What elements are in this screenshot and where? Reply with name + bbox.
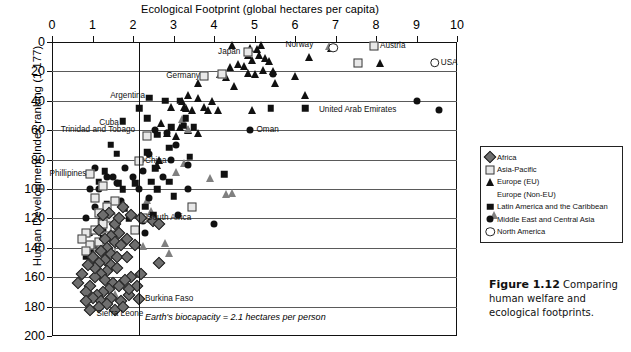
- data-point: [87, 186, 94, 193]
- y-tick-label: 20: [11, 64, 45, 78]
- data-point: [140, 168, 147, 175]
- legend-item[interactable]: Africa: [484, 151, 618, 163]
- data-point: [248, 56, 256, 64]
- data-point: [165, 249, 173, 257]
- point-label: Burkina Faso: [145, 295, 193, 303]
- point-label: Sierra Leone: [96, 310, 143, 318]
- legend-marker-icon: [484, 188, 497, 200]
- legend-item[interactable]: Europe (Non-EU): [484, 188, 618, 200]
- y-tick: [47, 218, 52, 219]
- data-point: [248, 106, 256, 114]
- data-point: [187, 202, 196, 211]
- data-point: [172, 132, 180, 140]
- y-tick-label: 120: [11, 211, 45, 225]
- data-point: [199, 71, 208, 80]
- biocapacity-note: Earth's biocapacity = 2.1 hectares per p…: [145, 312, 326, 322]
- x-tick: [457, 36, 458, 42]
- data-point: [142, 230, 149, 237]
- data-point: [146, 194, 153, 201]
- data-point: [120, 118, 127, 125]
- data-point: [184, 186, 191, 193]
- data-point: [194, 94, 202, 102]
- data-points: [52, 42, 60, 154]
- data-point: [167, 103, 175, 111]
- figure-root: Ecological Footprint (global hectares pe…: [0, 0, 631, 352]
- y-tick: [47, 336, 52, 337]
- data-point: [214, 106, 222, 114]
- data-point: [435, 106, 442, 113]
- gridline: [52, 160, 457, 161]
- data-point: [121, 165, 128, 172]
- y-tick-label: 180: [11, 300, 45, 314]
- point-label: Oman: [256, 126, 278, 134]
- y-tick: [47, 248, 52, 249]
- legend-marker-icon: [484, 201, 497, 213]
- point-label: China: [145, 157, 166, 165]
- data-point: [184, 162, 191, 169]
- data-point: [221, 171, 228, 178]
- point-label: Phillipines: [50, 170, 87, 178]
- point-label: Trinidad and Tobago: [61, 126, 135, 134]
- data-point: [369, 42, 378, 51]
- x-tick: [255, 36, 256, 42]
- legend-item[interactable]: North America: [484, 225, 618, 237]
- x-tick-label: 0: [49, 18, 56, 32]
- x-tick: [93, 36, 94, 42]
- y-tick-label: 60: [11, 123, 45, 137]
- data-point: [109, 174, 116, 181]
- gridline: [52, 101, 457, 102]
- data-point: [265, 57, 273, 65]
- y-tick: [47, 307, 52, 308]
- legend-item[interactable]: Asia-Pacific: [484, 163, 618, 175]
- legend-marker-icon: [484, 226, 497, 238]
- y-tick: [47, 189, 52, 190]
- data-point: [152, 165, 159, 172]
- figure-number: Figure 1.12: [489, 278, 560, 291]
- data-point: [114, 150, 121, 157]
- x-tick-label: 9: [413, 18, 420, 32]
- point-label: Austria: [380, 42, 405, 50]
- legend-item[interactable]: Europe (EU): [484, 176, 618, 188]
- y-tick: [47, 277, 52, 278]
- chart-legend: AfricaAsia-PacificEurope (EU)Europe (Non…: [480, 146, 623, 243]
- y-tick-label: 0: [11, 35, 45, 49]
- legend-item[interactable]: Middle East and Central Asia: [484, 213, 618, 225]
- data-point: [191, 124, 198, 131]
- data-point: [180, 123, 187, 130]
- data-point: [172, 141, 179, 148]
- point-label: South Africa: [147, 214, 191, 222]
- x-tick: [417, 36, 418, 42]
- x-tick-label: 2: [130, 18, 137, 32]
- legend-label: Africa: [497, 153, 516, 162]
- data-point: [430, 58, 440, 68]
- data-point: [267, 105, 274, 112]
- x-tick-label: 4: [211, 18, 218, 32]
- y-tick-label: 100: [11, 182, 45, 196]
- data-point: [83, 215, 90, 222]
- data-point: [143, 132, 152, 141]
- x-tick-label: 10: [450, 18, 464, 32]
- legend-marker-icon: [484, 164, 497, 176]
- legend-marker-icon: [484, 151, 497, 163]
- point-label: United Arab Emirates: [319, 106, 396, 114]
- data-point: [305, 53, 313, 61]
- x-tick-label: 8: [373, 18, 380, 32]
- data-point: [269, 71, 276, 78]
- data-point: [247, 127, 254, 134]
- data-point: [154, 186, 161, 193]
- data-point: [244, 48, 253, 57]
- y-tick-label: 80: [11, 153, 45, 167]
- data-point: [78, 234, 87, 243]
- data-point: [257, 41, 265, 49]
- data-point: [142, 203, 149, 210]
- data-point: [98, 182, 107, 191]
- y-tick-label: 40: [11, 94, 45, 108]
- legend-item[interactable]: Latin America and the Caribbean: [484, 201, 618, 213]
- data-point: [166, 178, 173, 185]
- data-point: [251, 70, 259, 78]
- x-tick: [336, 36, 337, 42]
- y-tick: [47, 160, 52, 161]
- data-point: [222, 190, 230, 198]
- data-point: [160, 174, 167, 181]
- data-point: [302, 105, 309, 112]
